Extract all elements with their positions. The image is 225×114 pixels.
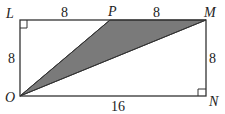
- right-angle-marker-n: [198, 89, 206, 96]
- length-label-pm: 8: [153, 5, 160, 20]
- geometry-figure: L P M O N 8 8 8 8 16: [0, 0, 225, 114]
- length-label-on: 16: [111, 99, 125, 114]
- point-label-l: L: [5, 6, 14, 21]
- length-label-lp: 8: [61, 5, 68, 20]
- point-label-p: P: [107, 4, 117, 19]
- point-label-m: M: [203, 5, 217, 20]
- point-label-n: N: [208, 94, 219, 109]
- length-label-mn: 8: [209, 51, 216, 66]
- point-label-o: O: [5, 90, 15, 105]
- length-label-lo: 8: [8, 51, 15, 66]
- right-angle-marker-l: [20, 20, 27, 28]
